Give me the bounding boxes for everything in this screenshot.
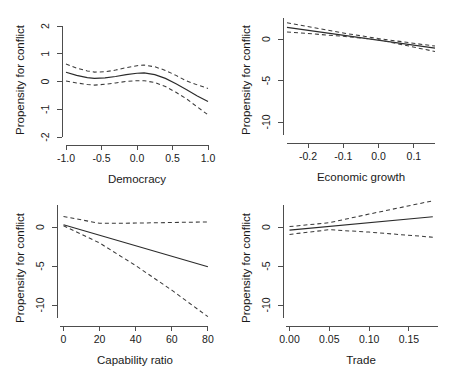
panel-economic-growth-ytick-2: -10 <box>260 114 272 129</box>
panel-democracy: Propensity for conflict 2 1 0 -1 -2 <box>0 0 225 189</box>
panel-capability-ratio-ytick-2: -10 <box>34 297 46 312</box>
panel-economic-growth-plot: Propensity for conflict 0 -5 -10 -0.2 -0… <box>226 0 451 189</box>
panel-capability-ratio-series <box>64 217 208 317</box>
panel-trade-ytick-0: 0 <box>260 224 272 230</box>
panel-democracy-ylabel: Propensity for conflict <box>14 24 26 135</box>
panel-trade-ytick-1: -5 <box>260 261 272 270</box>
panel-capability-ratio-xtick-3: 60 <box>166 333 178 345</box>
panel-economic-growth-xtick-1: -0.1 <box>334 150 352 162</box>
panel-democracy-xtick-1: -0.5 <box>92 152 110 164</box>
panel-capability-ratio-ylabel: Propensity for conflict <box>14 212 26 323</box>
panel-trade-plot: Propensity for conflict 0 -5 -10 0.00 0.… <box>226 190 451 379</box>
panel-democracy-xtick-3: 0.5 <box>165 152 180 164</box>
panel-trade-ylabel: Propensity for conflict <box>240 212 252 323</box>
panel-economic-growth-xlabel: Economic growth <box>317 171 405 183</box>
panel-capability-ratio-fit <box>64 225 208 267</box>
panel-capability-ratio-xtick-2: 40 <box>130 333 142 345</box>
panel-democracy-xlabel: Democracy <box>108 173 166 185</box>
panel-economic-growth-series <box>287 23 435 52</box>
panel-democracy-ytick-0: 2 <box>39 23 51 29</box>
panel-democracy-ytick-4: -2 <box>39 132 51 141</box>
panel-economic-growth-xtick-2: 0.0 <box>371 150 386 162</box>
panel-trade-xlabel: Trade <box>346 354 376 366</box>
panel-trade-yaxis: 0 -5 -10 <box>260 205 283 318</box>
panel-democracy-xaxis: -1.0 -0.5 0.0 0.5 1.0 <box>57 145 215 164</box>
panel-democracy-xtick-2: 0.0 <box>130 152 145 164</box>
panel-capability-ratio-lower-ci <box>64 226 208 317</box>
panel-capability-ratio-plot: Propensity for conflict 0 -5 -10 0 20 4 <box>0 190 225 379</box>
panel-economic-growth-fit <box>287 27 435 48</box>
panel-democracy-plot: Propensity for conflict 2 1 0 -1 -2 <box>0 0 225 189</box>
panel-economic-growth-ytick-1: -5 <box>260 76 272 85</box>
panel-capability-ratio-ytick-1: -5 <box>34 261 46 270</box>
panel-democracy-ytick-2: 0 <box>39 78 51 84</box>
panel-trade: Propensity for conflict 0 -5 -10 0.00 0.… <box>226 190 451 379</box>
panel-economic-growth-lower-ci <box>287 32 435 52</box>
panel-capability-ratio-xaxis: 0 20 40 60 80 <box>60 326 214 345</box>
panel-economic-growth-yaxis: 0 -5 -10 <box>260 18 283 135</box>
panel-trade-xtick-0: 0.00 <box>279 333 300 345</box>
panel-trade-xtick-2: 0.10 <box>359 333 380 345</box>
panel-trade-ytick-2: -10 <box>260 297 272 312</box>
figure-four-panel-regression: Propensity for conflict 2 1 0 -1 -2 <box>0 0 451 379</box>
panel-trade-xtick-3: 0.15 <box>399 333 420 345</box>
panel-trade-xaxis: 0.00 0.05 0.10 0.15 <box>279 326 438 345</box>
panel-economic-growth-xtick-3: 0.1 <box>407 150 422 162</box>
panel-economic-growth-ytick-0: 0 <box>260 36 272 42</box>
panel-economic-growth-upper-ci <box>287 23 435 46</box>
panel-democracy-ytick-1: 1 <box>39 51 51 57</box>
panel-capability-ratio-xtick-0: 0 <box>61 333 67 345</box>
panel-capability-ratio-xtick-1: 20 <box>94 333 106 345</box>
panel-economic-growth: Propensity for conflict 0 -5 -10 -0.2 -0… <box>226 0 451 189</box>
panel-capability-ratio-xlabel: Capability ratio <box>97 354 173 366</box>
panel-democracy-xtick-4: 1.0 <box>201 152 216 164</box>
panel-economic-growth-xtick-0: -0.2 <box>299 150 317 162</box>
panel-trade-lower-ci <box>290 230 433 238</box>
panel-capability-ratio: Propensity for conflict 0 -5 -10 0 20 4 <box>0 190 225 379</box>
panel-democracy-xtick-0: -1.0 <box>57 152 75 164</box>
panel-democracy-series <box>66 64 208 115</box>
panel-capability-ratio-yaxis: 0 -5 -10 <box>34 205 57 318</box>
panel-democracy-ytick-3: -1 <box>39 104 51 113</box>
panel-capability-ratio-xtick-4: 80 <box>202 333 214 345</box>
panel-democracy-yaxis: 2 1 0 -1 -2 <box>39 23 62 142</box>
panel-trade-series <box>290 201 433 237</box>
panel-economic-growth-ylabel: Propensity for conflict <box>240 24 252 135</box>
panel-trade-upper-ci <box>290 201 433 227</box>
panel-trade-fit <box>290 217 433 230</box>
panel-capability-ratio-upper-ci <box>64 217 208 224</box>
panel-capability-ratio-ytick-0: 0 <box>34 224 46 230</box>
panel-economic-growth-xaxis: -0.2 -0.1 0.0 0.1 <box>287 143 435 162</box>
panel-trade-xtick-1: 0.05 <box>319 333 340 345</box>
panel-democracy-fit <box>66 72 208 101</box>
panel-democracy-lower-ci <box>66 81 208 115</box>
